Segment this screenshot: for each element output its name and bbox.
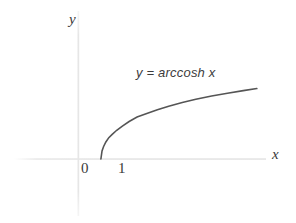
y-axis-label: y [69, 12, 76, 27]
plot-area [0, 0, 296, 223]
x-axis-line [14, 158, 266, 160]
curve-equation-annotation: y = arccosh x [136, 66, 216, 79]
figure-canvas: y x 0 1 y = arccosh x [0, 0, 296, 223]
x-axis-label: x [272, 147, 279, 162]
arccosh-curve [101, 89, 257, 159]
y-axis-line [78, 11, 80, 216]
tick-label-origin: 0 [81, 161, 89, 176]
tick-label-one: 1 [118, 161, 126, 176]
